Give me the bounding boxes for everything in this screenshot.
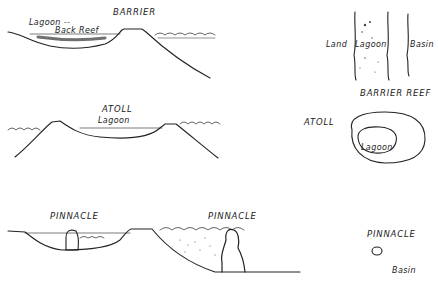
pinnacle-plan-view xyxy=(372,247,382,255)
barrier-title: BARRIER xyxy=(113,7,156,17)
plan-land-label: Land xyxy=(326,40,347,49)
pinnacle-cross-section xyxy=(8,228,300,273)
plan-lagoon-label: Lagoon xyxy=(355,40,387,49)
pinnacle-left-title: PINNACLE xyxy=(50,211,99,221)
barrier-reef-title: BARRIER REEF xyxy=(360,88,431,98)
atoll-plan-view xyxy=(351,112,425,163)
pinnacle-right-title: PINNACLE xyxy=(208,211,257,221)
atoll-cross-section xyxy=(8,121,220,158)
plan-basin-label: Basin xyxy=(410,40,434,49)
atoll-plan-lagoon-label: Lagoon xyxy=(361,143,393,152)
pinnacle-plan-basin-label: Basin xyxy=(392,266,416,275)
atoll-lagoon-label: Lagoon xyxy=(98,116,130,125)
barrier-back-reef-label: Back Reef xyxy=(55,26,99,35)
barrier-cross-section xyxy=(8,29,215,78)
pinnacle-plan-title: PINNACLE xyxy=(367,229,416,239)
atoll-title: ATOLL xyxy=(102,104,133,114)
reef-types-diagram: BARRIER Lagoon -- Back Reef ATOLL Lagoon… xyxy=(0,0,438,283)
atoll-plan-title: ATOLL xyxy=(304,117,335,127)
